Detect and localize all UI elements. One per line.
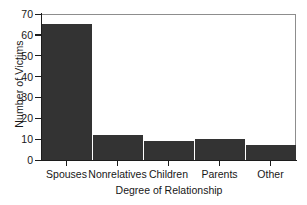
x-axis-tick-label: Parents (201, 168, 237, 180)
y-axis-tick-label-text: 0 (0, 155, 33, 165)
y-axis-tick-label: 20 (0, 113, 33, 123)
x-axis-tick (168, 160, 169, 166)
bar (246, 145, 296, 160)
y-axis-tick-label: 50 (0, 51, 33, 61)
y-axis-tick (35, 76, 41, 77)
y-axis-tick-label-text: 30 (0, 92, 33, 102)
x-axis-tick (117, 160, 118, 166)
y-axis-tick-label-text: 10 (0, 134, 33, 144)
bar (195, 139, 245, 160)
y-axis-tick (35, 139, 41, 140)
x-axis-tick (219, 160, 220, 166)
x-axis-tick-label: Other (257, 168, 283, 180)
y-axis-tick-label-text: 40 (0, 72, 33, 82)
y-axis-tick-label: 60 (0, 30, 33, 40)
y-axis-tick (35, 34, 41, 35)
y-axis-tick-label-text: 60 (0, 30, 33, 40)
bar-chart: Number of Victims 010203040506070 Spouse… (0, 0, 307, 205)
x-axis-tick-label: Spouses (46, 168, 87, 180)
x-axis-tick-label: Children (149, 168, 188, 180)
y-axis-tick-label-text: 70 (0, 9, 33, 19)
x-axis-tick-label: Nonrelatives (88, 168, 146, 180)
bar (144, 141, 194, 160)
x-axis-tick (66, 160, 67, 166)
y-axis-tick-label: 10 (0, 134, 33, 144)
y-axis-tick-label-text: 20 (0, 113, 33, 123)
y-axis-tick-label: 30 (0, 92, 33, 102)
y-axis-tick-label-text: 50 (0, 51, 33, 61)
bar (93, 135, 143, 160)
x-axis-title: Degree of Relationship (41, 184, 297, 196)
y-axis-tick (35, 160, 41, 161)
x-axis-tick (270, 160, 271, 166)
y-axis-tick-label: 40 (0, 72, 33, 82)
bar (42, 24, 92, 160)
y-axis-tick (35, 118, 41, 119)
y-axis-tick (35, 14, 41, 15)
y-axis-tick (35, 55, 41, 56)
y-axis-tick-label: 70 (0, 9, 33, 19)
y-axis-tick (35, 97, 41, 98)
y-axis-tick-label: 0 (0, 155, 33, 165)
